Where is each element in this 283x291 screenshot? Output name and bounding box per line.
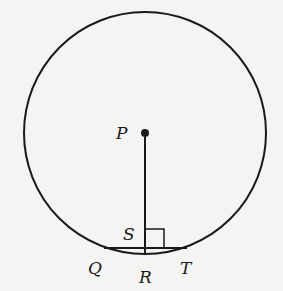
right-angle-marker [145,229,164,248]
geometry-diagram: P S Q R T [0,0,283,291]
label-T: T [180,258,193,278]
label-R: R [138,267,152,287]
diagram-canvas: P S Q R T [0,0,283,291]
label-P: P [115,123,128,143]
center-point-P [141,129,149,137]
label-S: S [123,224,135,244]
label-Q: Q [88,258,102,278]
